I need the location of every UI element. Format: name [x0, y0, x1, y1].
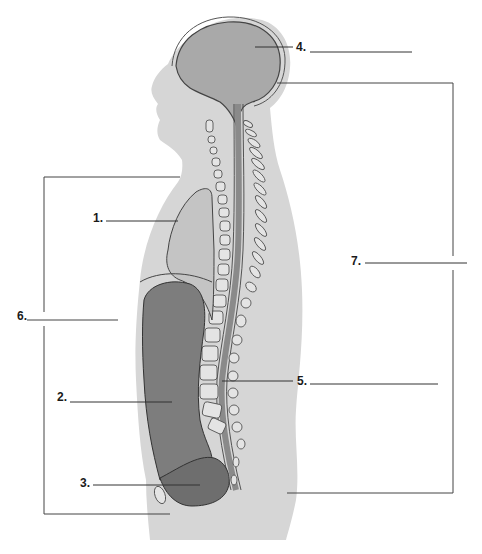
answer-blanks	[310, 52, 467, 384]
label-3: 3.	[80, 477, 90, 489]
label-6: 6.	[17, 310, 27, 322]
diagram-canvas	[0, 0, 482, 554]
label-2: 2.	[57, 391, 67, 403]
bracket-7	[277, 83, 453, 493]
label-5: 5.	[297, 375, 307, 387]
label-7: 7.	[351, 255, 361, 267]
label-4: 4.	[296, 41, 306, 53]
body-cavities-diagram: 1. 2. 3. 4. 5. 6. 7.	[0, 0, 482, 554]
label-1: 1.	[93, 212, 103, 224]
